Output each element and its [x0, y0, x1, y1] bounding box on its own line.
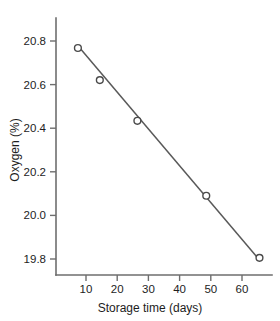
x-axis-tickmarks [86, 275, 242, 281]
data-point [203, 192, 210, 199]
scatter-plot-canvas: 20.8 20.6 20.4 20.2 20.0 19.8 10 20 30 4… [0, 0, 280, 321]
y-axis-tickmarks [50, 41, 56, 259]
x-tick-label: 20 [111, 283, 124, 295]
x-tick-label: 10 [80, 283, 93, 295]
y-tick-label: 20.8 [24, 35, 46, 47]
data-point [256, 254, 263, 261]
y-tick-label: 20.6 [24, 79, 46, 91]
chart-figure: 20.8 20.6 20.4 20.2 20.0 19.8 10 20 30 4… [0, 0, 280, 321]
x-axis-tick-labels: 10 20 30 40 50 60 [80, 283, 249, 295]
y-tick-label: 20.4 [24, 122, 47, 134]
x-tick-label: 30 [142, 283, 155, 295]
x-tick-label: 40 [173, 283, 186, 295]
y-axis-title: Oxygen (%) [8, 118, 22, 181]
x-tick-label: 60 [236, 283, 249, 295]
y-tick-label: 20.0 [24, 209, 46, 221]
x-tick-label: 50 [204, 283, 217, 295]
y-axis-tick-labels: 20.8 20.6 20.4 20.2 20.0 19.8 [24, 35, 47, 265]
y-tick-label: 19.8 [24, 253, 46, 265]
data-point [134, 117, 141, 124]
x-axis-title: Storage time (days) [98, 301, 203, 315]
y-tick-label: 20.2 [24, 166, 46, 178]
data-point [75, 45, 82, 52]
data-point [96, 77, 103, 84]
fitted-trend-line [78, 46, 260, 260]
